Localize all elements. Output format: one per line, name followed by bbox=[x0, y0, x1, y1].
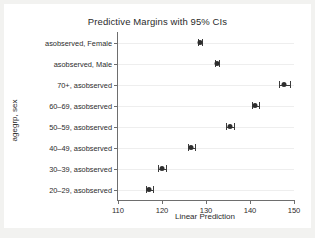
data-point-dot bbox=[147, 187, 152, 192]
y-axis-tick bbox=[114, 169, 118, 170]
x-axis-tick bbox=[118, 200, 119, 204]
y-axis-category-label: 60–69, asobserved bbox=[4, 101, 112, 110]
x-axis-tick bbox=[206, 200, 207, 204]
ci-cap-high bbox=[234, 123, 235, 130]
ci-cap-low bbox=[279, 81, 280, 88]
data-point-dot bbox=[160, 166, 165, 171]
x-axis-tick-label: 150 bbox=[288, 206, 301, 215]
ci-cap-high bbox=[166, 165, 167, 172]
data-point-dot bbox=[228, 124, 233, 129]
x-axis-tick bbox=[250, 200, 251, 204]
data-point-dot bbox=[253, 103, 258, 108]
gridline bbox=[118, 127, 294, 128]
x-axis-tick-label: 110 bbox=[112, 206, 124, 215]
data-point-dot bbox=[189, 145, 194, 150]
y-axis-category-label: 40–49, asobserved bbox=[4, 143, 112, 152]
data-point-dot bbox=[197, 40, 202, 45]
x-axis-tick-label: 140 bbox=[244, 206, 257, 215]
y-axis-tick bbox=[114, 127, 118, 128]
data-point-dot bbox=[215, 61, 220, 66]
x-axis-tick-label: 120 bbox=[156, 206, 169, 215]
gridline bbox=[118, 64, 294, 65]
graph-region: Predictive Margins with 95% CIs agegrp, … bbox=[4, 4, 311, 228]
y-axis-tick bbox=[114, 148, 118, 149]
ci-cap-high bbox=[290, 81, 291, 88]
gridline bbox=[118, 43, 294, 44]
chart-title: Predictive Margins with 95% CIs bbox=[4, 16, 311, 27]
y-axis-tick bbox=[114, 64, 118, 65]
data-point-dot bbox=[282, 82, 287, 87]
chart-screenshot: Predictive Margins with 95% CIs agegrp, … bbox=[0, 0, 315, 238]
x-axis-tick-label: 130 bbox=[200, 206, 213, 215]
ci-cap-high bbox=[259, 102, 260, 109]
gridline bbox=[118, 148, 294, 149]
gridline bbox=[118, 106, 294, 107]
gridline bbox=[118, 190, 294, 191]
gridline bbox=[118, 85, 294, 86]
y-axis-category-label: 20–29, asobserved bbox=[4, 185, 112, 194]
y-axis-category-label: asobserved, Male bbox=[4, 59, 112, 68]
y-axis-category-label: 70+, asobserved bbox=[4, 80, 112, 89]
y-axis-tick bbox=[114, 106, 118, 107]
y-axis-tick bbox=[114, 190, 118, 191]
plot-area: 110120130140150 bbox=[117, 32, 294, 201]
y-axis-tick bbox=[114, 85, 118, 86]
y-axis-category-label: 50–59, asobserved bbox=[4, 122, 112, 131]
x-axis-tick bbox=[162, 200, 163, 204]
y-axis-category-label: 30–39, asobserved bbox=[4, 164, 112, 173]
ci-cap-high bbox=[195, 144, 196, 151]
ci-cap-high bbox=[153, 186, 154, 193]
gridline bbox=[118, 169, 294, 170]
y-axis-tick bbox=[114, 43, 118, 44]
y-axis-category-label: asobserved, Female bbox=[4, 38, 112, 47]
x-axis-tick bbox=[294, 200, 295, 204]
